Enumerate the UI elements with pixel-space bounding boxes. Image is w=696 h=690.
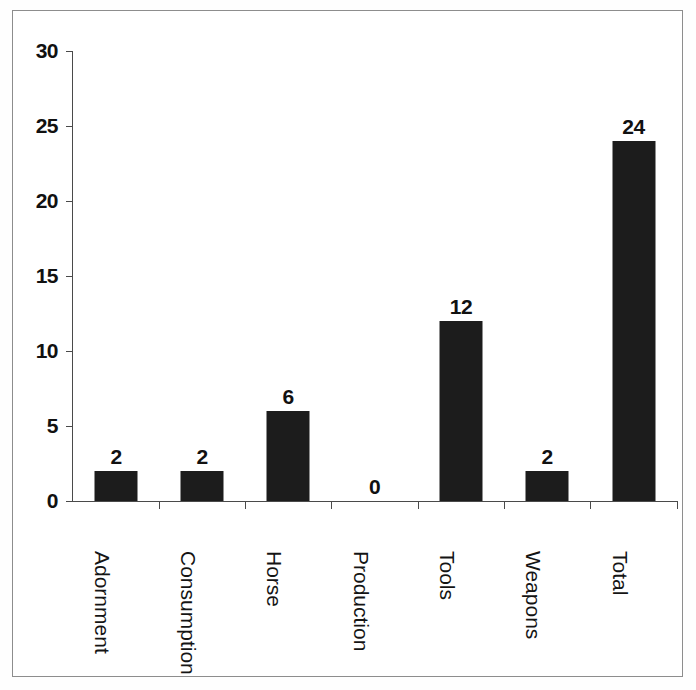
scanned-page: 30 25 20 15 10 5 0 [0, 0, 696, 690]
y-axis-tick-label: 20 [36, 190, 58, 211]
y-axis-tick: 20 [66, 201, 73, 202]
y-axis-tick: 0 [66, 501, 73, 502]
bar-group-tools[interactable]: 12 [418, 51, 504, 501]
x-axis-tick-label: Consumption [178, 551, 199, 675]
y-axis-tick: 15 [66, 276, 73, 277]
x-axis-tick-label: Horse [264, 551, 285, 607]
x-axis-tick-label: Tools [437, 551, 458, 600]
bar-group-adornment[interactable]: 2 [73, 51, 159, 501]
y-axis-tick-label: 10 [36, 340, 58, 361]
x-axis-tick-label: Adornment [92, 551, 113, 654]
bar[interactable] [526, 471, 569, 501]
bar-value-label: 0 [369, 476, 380, 497]
bar[interactable] [181, 471, 224, 501]
bar[interactable] [612, 141, 655, 501]
bar[interactable] [440, 321, 483, 501]
bar-value-label: 6 [282, 386, 293, 407]
plot-area: 30 25 20 15 10 5 0 [73, 51, 678, 501]
y-axis-tick-label: 5 [47, 415, 58, 436]
y-axis-tick: 30 [66, 51, 73, 52]
y-axis-tick-label: 15 [36, 265, 58, 286]
x-axis-tick [331, 501, 332, 509]
y-axis-tick-label: 0 [47, 490, 58, 511]
x-axis-tick [590, 501, 591, 509]
bar-value-label: 2 [196, 446, 207, 467]
bar-value-label: 2 [110, 446, 121, 467]
bar-value-label: 24 [622, 116, 644, 137]
x-axis-tick [159, 501, 160, 509]
bar[interactable] [95, 471, 138, 501]
y-axis-tick: 5 [66, 426, 73, 427]
y-axis-tick: 10 [66, 351, 73, 352]
y-axis-tick-label: 25 [36, 115, 58, 136]
x-axis-tick [418, 501, 419, 509]
y-axis-tick-label: 30 [36, 40, 58, 61]
bar-group-consumption[interactable]: 2 [159, 51, 245, 501]
x-axis-tick-label: Weapons [523, 551, 544, 639]
bar-value-label: 2 [541, 446, 552, 467]
x-axis-tick [245, 501, 246, 509]
figure-frame: 30 25 20 15 10 5 0 [12, 10, 683, 677]
bar-value-label: 12 [450, 296, 472, 317]
x-axis-line [72, 501, 678, 502]
bar[interactable] [267, 411, 310, 501]
y-axis-tick: 25 [66, 126, 73, 127]
x-axis-tick [677, 501, 678, 509]
x-axis-tick [504, 501, 505, 509]
bar-group-production[interactable]: 0 [331, 51, 418, 501]
bar-group-total[interactable]: 24 [590, 51, 677, 501]
bar-group-weapons[interactable]: 2 [504, 51, 590, 501]
bar-group-horse[interactable]: 6 [245, 51, 331, 501]
x-axis-tick-label: Total [610, 551, 631, 595]
x-axis-tick-label: Production [351, 551, 372, 651]
